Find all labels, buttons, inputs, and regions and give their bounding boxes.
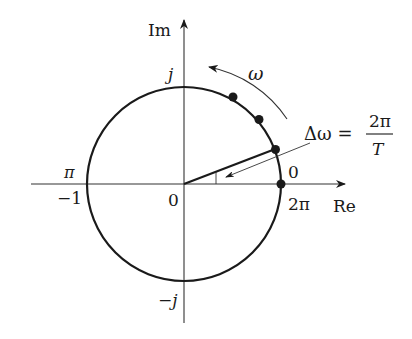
label-origin: 0	[168, 190, 179, 210]
radius-line	[184, 149, 275, 184]
imag-axis-label: Im	[148, 20, 171, 40]
label-j: j	[164, 64, 174, 84]
label-two-pi: 2π	[288, 194, 310, 214]
formula-lhs: Δω =	[304, 123, 352, 144]
label-minus-one: −1	[57, 188, 82, 208]
label-zero-angle: 0	[288, 162, 299, 182]
label-pi: π	[63, 163, 75, 182]
diagram-canvas: Im Re j −j π −1 0 0 2π ω Δω = 2π T	[0, 0, 412, 339]
sample-point-0	[277, 180, 286, 189]
label-minus-j: −j	[158, 290, 178, 310]
real-axis-label: Re	[333, 196, 356, 216]
sample-point-3	[229, 93, 238, 102]
unit-circle-diagram: Im Re j −j π −1 0 0 2π ω Δω = 2π T	[0, 0, 412, 339]
formula-denominator: T	[372, 139, 385, 159]
sample-point-2	[255, 115, 264, 124]
sample-point-1	[271, 145, 280, 154]
label-omega: ω	[248, 62, 264, 84]
formula-numerator: 2π	[369, 111, 391, 131]
